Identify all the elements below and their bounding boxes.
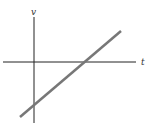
- y-axis-label: v: [31, 7, 36, 17]
- velocity-time-graph: v t: [0, 0, 149, 130]
- data-line: [20, 31, 121, 117]
- x-axis-label: t: [141, 57, 145, 67]
